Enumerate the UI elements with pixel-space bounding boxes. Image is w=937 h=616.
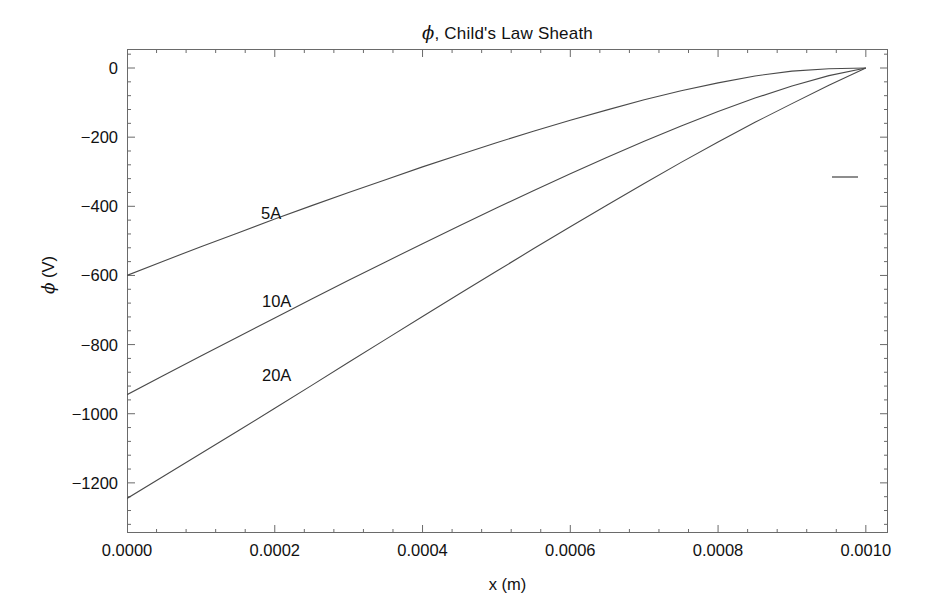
plot-canvas: [127, 49, 888, 533]
y-tick-label: −800: [8, 335, 118, 354]
curve-label-20a: 20A: [262, 366, 291, 385]
y-tick-label: 0: [8, 59, 118, 78]
y-axis-title-text: (V): [39, 256, 57, 283]
y-tick-label: −1200: [8, 473, 118, 492]
curve-label-10a: 10A: [262, 292, 291, 311]
y-axis-tick-labels: 0−200−400−600−800−1000−1200: [4, 0, 118, 616]
x-axis-title: x (m): [127, 575, 888, 594]
phi-symbol-axis: ϕ: [38, 283, 58, 295]
frame-edge-mark: [832, 176, 858, 178]
curve-label-5a: 5A: [261, 204, 281, 223]
data-curves: [127, 68, 866, 498]
x-tick-label: 0.0002: [205, 541, 345, 560]
tick-marks: [127, 49, 888, 533]
x-tick-label: 0.0010: [796, 541, 936, 560]
curve-20a: [127, 68, 866, 498]
x-tick-label: 0.0004: [353, 541, 493, 560]
y-tick-label: −200: [8, 128, 118, 147]
y-axis-title: ϕ (V): [38, 215, 58, 335]
y-tick-label: −600: [8, 266, 118, 285]
x-axis-tick-labels: 0.00000.00020.00040.00060.00080.0010: [0, 541, 937, 567]
x-tick-label: 0.0008: [648, 541, 788, 560]
y-tick-label: −400: [8, 197, 118, 216]
curve-5a: [127, 68, 866, 275]
x-tick-label: 0.0000: [57, 541, 197, 560]
chart-title-text: , Child's Law Sheath: [435, 24, 593, 43]
x-tick-label: 0.0006: [500, 541, 640, 560]
y-tick-label: −1000: [8, 404, 118, 423]
phi-symbol: ϕ: [422, 22, 434, 43]
chart-title: ϕ, Child's Law Sheath: [127, 22, 888, 44]
curve-10a: [127, 68, 866, 395]
figure-root: ϕ, Child's Law Sheath 0−200−400−600−800−…: [0, 0, 937, 616]
